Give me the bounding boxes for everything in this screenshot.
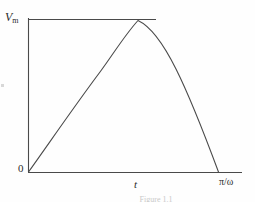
plot-canvas	[0, 0, 255, 202]
y-axis-peak-label: Vm	[5, 11, 19, 25]
figure-container: Vm 0 t π/ω Figure 1.1	[0, 0, 255, 202]
x-axis-label: t	[134, 179, 137, 190]
origin-label: 0	[18, 163, 24, 174]
figure-caption-partial: Figure 1.1	[96, 195, 216, 202]
page-edge-speck	[1, 84, 4, 87]
x-axis-end-label: π/ω	[219, 177, 233, 187]
sine-half-wave-curve	[29, 21, 219, 173]
y-axis-peak-subscript: m	[12, 16, 18, 25]
